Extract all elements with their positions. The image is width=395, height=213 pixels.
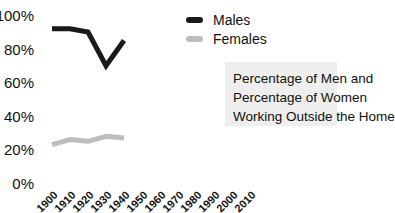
chart-title-line-1: Percentage of Men and: [233, 69, 395, 88]
legend-item-females: Females: [186, 29, 267, 48]
legend-swatch-males: [186, 17, 203, 23]
legend-swatch-females: [186, 36, 203, 42]
legend-item-males: Males: [186, 10, 267, 29]
series-line-males: [52, 29, 124, 66]
chart-title-line-3: Working Outside the Home: [233, 107, 395, 126]
legend-label-females: Females: [213, 31, 267, 47]
legend-label-males: Males: [213, 12, 250, 28]
legend: Males Females: [186, 10, 267, 48]
chart-title: Percentage of Men and Percentage of Wome…: [233, 69, 395, 126]
series-line-females: [52, 136, 124, 144]
chart-title-line-2: Percentage of Women: [233, 88, 395, 107]
